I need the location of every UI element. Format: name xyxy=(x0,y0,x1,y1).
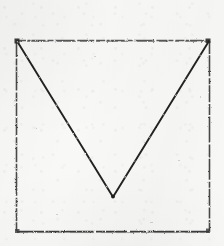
speck xyxy=(150,222,153,223)
square-outline xyxy=(17,41,210,233)
speck xyxy=(94,56,96,57)
scan-specks xyxy=(36,56,201,223)
corner-ink-blobs xyxy=(15,39,211,234)
speck xyxy=(56,214,58,215)
line-drawing-canvas xyxy=(0,0,224,246)
speck xyxy=(200,96,201,98)
speck xyxy=(178,160,180,161)
v-vertex-blob xyxy=(111,195,115,199)
speck xyxy=(36,128,37,129)
corner-blob-bottom-right xyxy=(206,229,210,234)
v-shape xyxy=(17,41,209,199)
corner-blob-bottom-left xyxy=(15,229,20,233)
scanned-page xyxy=(0,0,224,246)
